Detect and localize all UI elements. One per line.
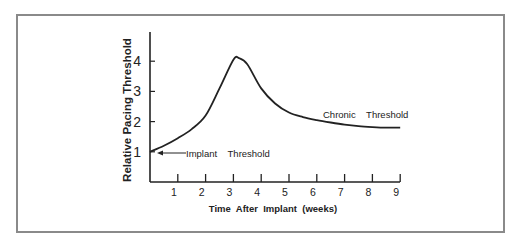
x-tick-label: 4 [254, 186, 260, 198]
y-tick-label: 4 [133, 53, 141, 69]
implant-threshold-label: Implant Threshold [186, 148, 270, 159]
x-ticks: 123456789 [171, 174, 400, 198]
y-tick-label: 3 [133, 83, 141, 99]
threshold-curve [150, 57, 400, 152]
x-tick-label: 2 [199, 186, 205, 198]
chart-svg: 123456789 1234 Implant Threshold Chronic… [0, 0, 516, 247]
x-axis-label: Time After Implant (weeks) [209, 203, 337, 214]
x-tick-label: 9 [393, 186, 399, 198]
x-tick-label: 3 [226, 186, 232, 198]
y-axis-label: Relative Pacing Threshold [121, 38, 133, 182]
x-tick-label: 1 [171, 186, 177, 198]
arrowhead-icon [157, 151, 163, 156]
y-tick-label: 1 [133, 144, 141, 160]
x-tick-label: 7 [338, 186, 344, 198]
x-tick-label: 5 [282, 186, 288, 198]
x-tick-label: 8 [365, 186, 371, 198]
x-tick-label: 6 [310, 186, 316, 198]
chronic-threshold-label: Chronic Threshold [323, 109, 408, 120]
y-tick-label: 2 [133, 114, 141, 130]
y-ticks: 1234 [133, 53, 155, 160]
